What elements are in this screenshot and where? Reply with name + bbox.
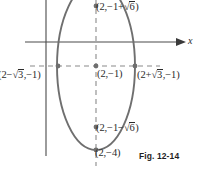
- label-right-covertex-pre: (2+: [137, 69, 151, 80]
- x-axis-arrowhead: [176, 38, 186, 46]
- label-top-vertex-mid: −1+: [107, 1, 124, 12]
- label-left-covertex-post: ,−1): [24, 69, 41, 80]
- figure-caption: Fig. 12-14: [139, 152, 179, 161]
- label-top-vertex-post: ): [135, 1, 138, 12]
- label-bottom-vertex: (2,−4): [95, 148, 120, 159]
- label-right-covertex-post: ,−1): [163, 69, 180, 80]
- label-lower-point-post: ): [135, 122, 138, 133]
- label-lower-point: (2,−1−√6): [96, 122, 139, 134]
- figure-ellipse-diagram: (2,−1+√6) (2−√3,−1) (2,−1) (2+√3,−1) (2,…: [0, 0, 202, 169]
- label-right-covertex: (2+√3,−1): [137, 69, 180, 81]
- point-left-covertex: [56, 64, 61, 69]
- label-center-point: (2,−1): [97, 69, 122, 80]
- label-top-vertex-pre: (2,: [96, 1, 107, 12]
- diagram-canvas: [0, 0, 202, 169]
- label-x-axis: x: [188, 36, 192, 46]
- label-lower-point-pre: (2,: [96, 122, 107, 133]
- label-top-vertex: (2,−1+√6): [96, 1, 139, 13]
- label-left-covertex: (2−√3,−1): [0, 69, 41, 81]
- point-right-covertex: [133, 64, 138, 69]
- label-left-covertex-pre: (2−: [0, 69, 12, 80]
- label-lower-point-mid: −1−: [107, 122, 124, 133]
